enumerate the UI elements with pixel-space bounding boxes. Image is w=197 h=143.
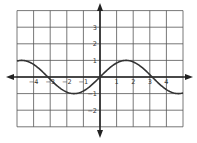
x-tick-label: 4: [164, 78, 168, 86]
x-tick-label: −4: [29, 78, 39, 86]
y-tick-label: 1: [93, 57, 97, 65]
x-tick-label: 3: [148, 78, 152, 86]
y-tick-label: −2: [87, 107, 97, 115]
x-tick-label: −2: [62, 78, 72, 86]
x-tick-label: 1: [115, 78, 119, 86]
y-tick-label: 3: [93, 24, 97, 32]
x-axis-right-arrow-icon: [185, 74, 193, 80]
y-axis-down-arrow-icon: [97, 130, 103, 138]
x-tick-label: 2: [131, 78, 135, 86]
y-tick-label: −1: [87, 90, 97, 98]
chart: −4−3−2−11234321−1−2: [0, 0, 197, 143]
x-tick-label: −1: [79, 78, 89, 86]
x-tick-label: −3: [45, 78, 55, 86]
x-axis-left-arrow-icon: [6, 74, 14, 80]
y-tick-label: 2: [93, 40, 97, 48]
y-axis-up-arrow-icon: [97, 3, 103, 11]
